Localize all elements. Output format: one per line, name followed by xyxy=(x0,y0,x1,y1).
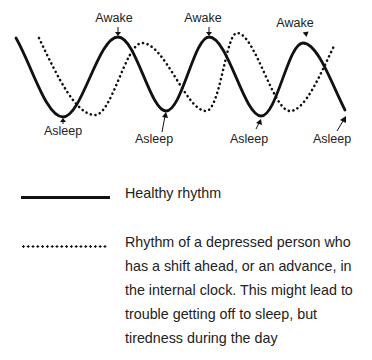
asleep-arrow-2 xyxy=(162,112,168,132)
rhythm-diagram: Awake Awake Awake Asleep Asleep Asleep A… xyxy=(0,0,372,160)
legend-description-line: has a shift ahead, or an advance, in xyxy=(125,254,370,278)
legend-solid-line-swatch xyxy=(21,196,110,199)
asleep-label: Asleep xyxy=(230,133,268,146)
awake-arrow-2 xyxy=(206,27,212,36)
awake-label: Awake xyxy=(276,17,313,30)
legend-description-line: the internal clock. This might lead to xyxy=(125,278,370,302)
asleep-label: Asleep xyxy=(44,125,82,138)
legend-depressed-description: Rhythm of a depressed person who has a s… xyxy=(125,230,370,350)
asleep-arrow-4 xyxy=(337,116,346,131)
asleep-label: Asleep xyxy=(135,133,173,146)
asleep-label: Asleep xyxy=(313,133,351,146)
healthy-rhythm-curve xyxy=(16,37,345,117)
legend-description-line: trouble getting off to sleep, but xyxy=(125,302,370,326)
legend-description-line: Rhythm of a depressed person who xyxy=(125,230,370,254)
awake-label: Awake xyxy=(95,12,132,25)
awake-label: Awake xyxy=(184,12,221,25)
legend-description-line: tiredness during the day xyxy=(125,326,370,350)
awake-arrow-1 xyxy=(115,27,121,36)
legend-healthy-label: Healthy rhythm xyxy=(125,181,221,205)
asleep-arrow-3 xyxy=(256,119,262,129)
awake-arrow-3 xyxy=(303,32,310,38)
legend-dotted-line-swatch xyxy=(21,245,108,248)
